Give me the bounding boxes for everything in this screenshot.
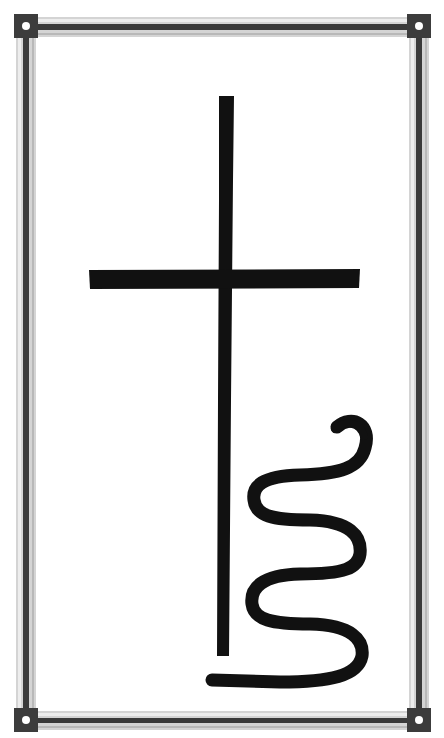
- corner-bottom-right-icon: [407, 708, 431, 732]
- illustration-canvas: [0, 0, 444, 738]
- corner-bottom-left-icon: [14, 708, 38, 732]
- serpent-body: [212, 421, 366, 682]
- cross-vertical-bar: [217, 96, 234, 656]
- corner-top-right-icon: [407, 14, 431, 38]
- serpent-icon: [212, 421, 366, 686]
- cross-horizontal-bar: [89, 269, 360, 289]
- corner-top-left-icon: [14, 14, 38, 38]
